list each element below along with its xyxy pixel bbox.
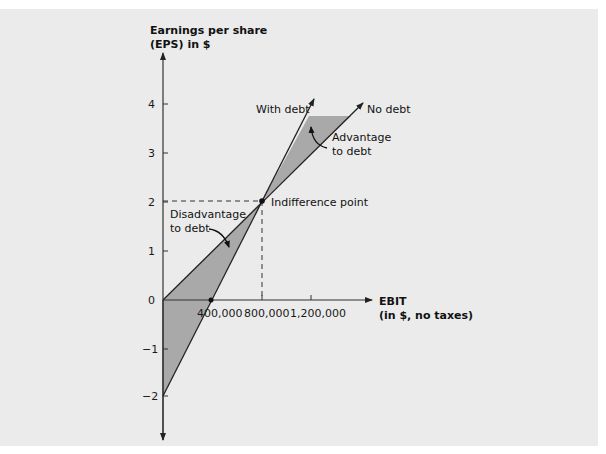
breakeven-point-marker (209, 298, 214, 303)
y-axis-title-line2: (EPS) in $ (150, 38, 210, 51)
with-debt-label: With debt (256, 103, 310, 116)
svg-text:1,200,000: 1,200,000 (290, 307, 346, 320)
with-debt-line (163, 99, 314, 396)
advantage-label-line1: Advantage (332, 131, 392, 144)
x-tick-labels: 400,000 800,000 1,200,000 (197, 307, 346, 320)
no-debt-label: No debt (367, 103, 411, 116)
svg-text:−2: −2 (142, 390, 158, 403)
svg-text:4: 4 (148, 98, 155, 111)
disadvantage-label-line1: Disadvantage (170, 208, 246, 221)
eps-ebit-chart: 4 3 2 1 0 −1 −2 400,000 800,000 1,200,00… (0, 0, 606, 454)
indifference-point-marker (259, 198, 265, 204)
x-ticks (262, 295, 311, 300)
svg-text:3: 3 (148, 147, 155, 160)
svg-text:800,000: 800,000 (244, 307, 290, 320)
svg-text:−1: −1 (142, 343, 158, 356)
indifference-point-label: Indifference point (271, 196, 369, 209)
y-axis-title-line1: Earnings per share (150, 24, 267, 37)
x-axis-title-line2: (in $, no taxes) (379, 309, 473, 322)
y-tick-labels: 4 3 2 1 0 −1 −2 (142, 98, 158, 403)
x-axis-title-line1: EBIT (379, 295, 407, 308)
svg-text:0: 0 (148, 294, 155, 307)
svg-text:1: 1 (148, 245, 155, 258)
svg-text:2: 2 (148, 196, 155, 209)
svg-text:400,000: 400,000 (197, 307, 243, 320)
advantage-label-line2: to debt (332, 145, 372, 158)
disadvantage-label-line2: to debt (170, 222, 210, 235)
